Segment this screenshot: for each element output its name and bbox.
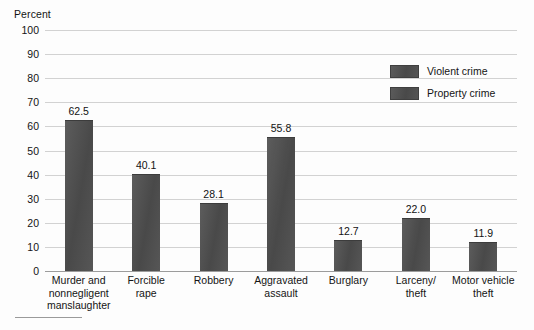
bar-value-label: 28.1 <box>203 188 223 200</box>
bar-value-label: 40.1 <box>136 159 156 171</box>
legend-swatch <box>390 65 419 78</box>
bar-value-label: 12.7 <box>338 225 358 237</box>
bar-value-label: 62.5 <box>68 105 88 117</box>
bar-group: 12.7 <box>334 30 362 271</box>
y-axis-tick-label: 60 <box>27 120 39 132</box>
y-axis-tick-label: 40 <box>27 169 39 181</box>
bar[interactable] <box>402 218 430 271</box>
legend: Violent crimeProperty crime <box>390 60 495 104</box>
x-axis-label-line: manslaughter <box>33 299 125 312</box>
bar[interactable] <box>200 203 228 271</box>
x-axis-label-line: Motor vehicle <box>437 274 529 287</box>
footnote-rule <box>15 317 82 318</box>
x-axis-label-line: rape <box>100 287 192 300</box>
y-axis-tick-label: 100 <box>21 24 39 36</box>
x-axis-category-labels: Murder andnonnegligentmanslaughterForcib… <box>45 274 517 324</box>
legend-item[interactable]: Property crime <box>390 82 495 104</box>
x-axis-label-line: theft <box>437 287 529 300</box>
bar[interactable] <box>267 137 295 271</box>
bar-group: 55.8 <box>267 30 295 271</box>
bar-value-label: 11.9 <box>473 227 493 239</box>
x-axis-category-label: Motor vehicletheft <box>437 274 529 299</box>
bar[interactable] <box>132 174 160 271</box>
bar[interactable] <box>469 242 497 271</box>
x-axis-label-line: assault <box>235 287 327 300</box>
bar-chart: Percent 1009080706050403020100 62.540.12… <box>0 0 534 330</box>
y-axis-tick-label: 70 <box>27 96 39 108</box>
legend-label: Violent crime <box>427 65 488 77</box>
y-axis-tick-label: 20 <box>27 217 39 229</box>
y-axis-tick-label: 10 <box>27 241 39 253</box>
x-axis-baseline <box>45 271 517 272</box>
legend-label: Property crime <box>427 87 495 99</box>
bar-value-label: 22.0 <box>406 203 426 215</box>
legend-item[interactable]: Violent crime <box>390 60 495 82</box>
y-axis-tick-label: 30 <box>27 193 39 205</box>
bar-value-label: 55.8 <box>271 122 291 134</box>
y-axis-title: Percent <box>14 8 51 20</box>
legend-swatch <box>390 87 419 100</box>
y-axis-tick-label: 80 <box>27 72 39 84</box>
bar-group: 40.1 <box>132 30 160 271</box>
bar[interactable] <box>65 120 93 271</box>
y-axis-tick-label: 90 <box>27 48 39 60</box>
bar[interactable] <box>334 240 362 271</box>
y-axis-tick-label: 50 <box>27 145 39 157</box>
bar-group: 28.1 <box>200 30 228 271</box>
bar-group: 62.5 <box>65 30 93 271</box>
